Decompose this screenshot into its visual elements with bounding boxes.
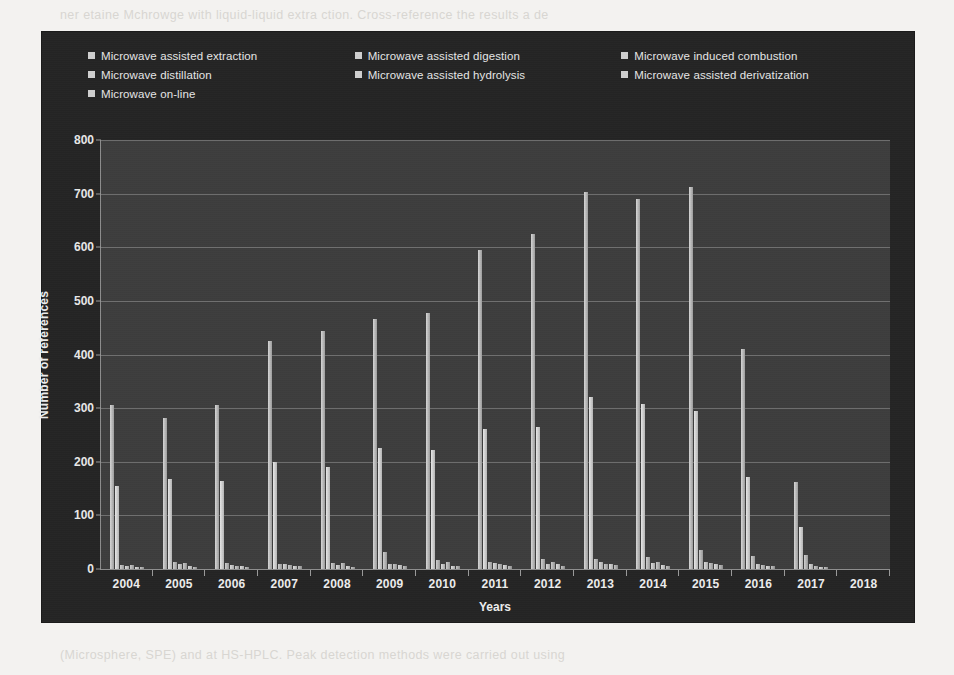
bar[interactable] — [604, 564, 608, 569]
legend-item[interactable]: Microwave assisted digestion — [355, 46, 622, 65]
bar[interactable] — [331, 563, 335, 569]
bar[interactable] — [403, 566, 407, 569]
bar[interactable] — [819, 567, 823, 569]
bar[interactable] — [135, 567, 139, 569]
legend-item[interactable]: Microwave assisted derivatization — [621, 65, 888, 84]
bar[interactable] — [719, 565, 723, 569]
bar[interactable] — [503, 565, 507, 569]
bar[interactable] — [531, 234, 535, 569]
bar[interactable] — [809, 564, 813, 569]
bar[interactable] — [771, 566, 775, 569]
legend-item[interactable]: Microwave distillation — [88, 65, 355, 84]
bar[interactable] — [383, 552, 387, 569]
bar[interactable] — [589, 397, 593, 569]
legend-item[interactable]: Microwave on-line — [88, 84, 355, 103]
bar[interactable] — [614, 565, 618, 569]
bar[interactable] — [498, 564, 502, 569]
bar[interactable] — [173, 562, 177, 570]
bar[interactable] — [666, 566, 670, 569]
bar[interactable] — [140, 567, 144, 569]
bar[interactable] — [756, 564, 760, 569]
bar[interactable] — [293, 566, 297, 569]
bar[interactable] — [283, 564, 287, 569]
legend-item[interactable]: Microwave assisted extraction — [88, 46, 355, 65]
bar[interactable] — [326, 467, 330, 569]
bar[interactable] — [766, 566, 770, 569]
bar[interactable] — [193, 567, 197, 569]
bar[interactable] — [225, 563, 229, 569]
bar[interactable] — [346, 566, 350, 569]
bar[interactable] — [651, 563, 655, 569]
bar[interactable] — [426, 313, 430, 569]
bar[interactable] — [393, 564, 397, 569]
bar[interactable] — [551, 562, 555, 570]
bar[interactable] — [130, 565, 134, 569]
bar[interactable] — [336, 565, 340, 569]
bar[interactable] — [488, 562, 492, 569]
bar[interactable] — [163, 418, 167, 569]
bar[interactable] — [761, 565, 765, 569]
bar[interactable] — [441, 564, 445, 569]
bar[interactable] — [120, 565, 124, 569]
bar[interactable] — [446, 562, 450, 569]
bar[interactable] — [493, 563, 497, 569]
bar[interactable] — [288, 565, 292, 569]
bar[interactable] — [436, 560, 440, 569]
bar[interactable] — [431, 450, 435, 569]
bar[interactable] — [714, 564, 718, 569]
bar[interactable] — [278, 564, 282, 569]
bar[interactable] — [656, 562, 660, 569]
bar[interactable] — [746, 477, 750, 569]
bar[interactable] — [741, 349, 745, 569]
bar[interactable] — [794, 482, 798, 569]
bar[interactable] — [188, 566, 192, 569]
bar[interactable] — [230, 565, 234, 569]
bar[interactable] — [536, 427, 540, 569]
bar[interactable] — [321, 331, 325, 569]
bar[interactable] — [478, 250, 482, 569]
bar[interactable] — [541, 559, 545, 569]
bar[interactable] — [125, 566, 129, 569]
bar[interactable] — [235, 566, 239, 569]
bar[interactable] — [351, 567, 355, 569]
bar[interactable] — [799, 527, 803, 569]
bar[interactable] — [699, 550, 703, 569]
bar[interactable] — [546, 564, 550, 569]
bar[interactable] — [483, 429, 487, 569]
bar[interactable] — [636, 199, 640, 569]
bar[interactable] — [110, 405, 114, 569]
bar[interactable] — [594, 559, 598, 569]
bar[interactable] — [220, 481, 224, 569]
bar[interactable] — [240, 566, 244, 569]
bar[interactable] — [584, 192, 588, 569]
bar[interactable] — [456, 566, 460, 569]
bar[interactable] — [641, 404, 645, 569]
bar[interactable] — [451, 566, 455, 569]
bar[interactable] — [561, 566, 565, 569]
bar[interactable] — [398, 565, 402, 569]
bar[interactable] — [709, 563, 713, 569]
bar[interactable] — [704, 562, 708, 570]
bar[interactable] — [178, 564, 182, 569]
bar[interactable] — [694, 411, 698, 569]
bar[interactable] — [508, 566, 512, 569]
bar[interactable] — [689, 187, 693, 569]
bar[interactable] — [814, 566, 818, 569]
bar[interactable] — [388, 564, 392, 569]
bar[interactable] — [245, 567, 249, 569]
bar[interactable] — [273, 462, 277, 569]
bar[interactable] — [804, 555, 808, 569]
bar[interactable] — [556, 564, 560, 569]
bar[interactable] — [373, 319, 377, 569]
bar[interactable] — [599, 562, 603, 570]
bar[interactable] — [268, 341, 272, 569]
legend-item[interactable]: Microwave induced combustion — [621, 46, 888, 65]
bar[interactable] — [661, 565, 665, 569]
legend-item[interactable]: Microwave assisted hydrolysis — [355, 65, 622, 84]
bar[interactable] — [298, 566, 302, 569]
bar[interactable] — [378, 448, 382, 569]
bar[interactable] — [215, 405, 219, 569]
bar[interactable] — [751, 556, 755, 569]
bar[interactable] — [646, 557, 650, 569]
bar[interactable] — [609, 564, 613, 569]
